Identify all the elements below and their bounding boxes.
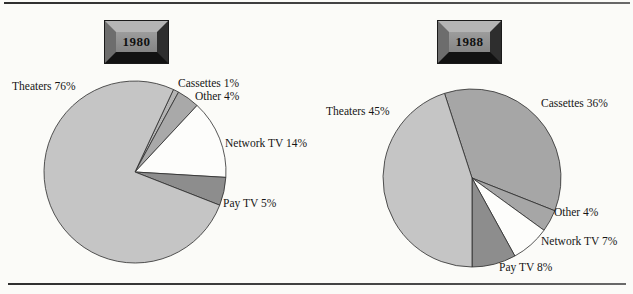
label-other-1988: Other 4% (554, 206, 598, 219)
year-plaque-1988: 1988 (438, 21, 501, 63)
label-network-tv-1980: Network TV 14% (225, 137, 307, 150)
figure-pie-comparison: 1980 1988 Cassettes 1% Other 4% Network … (0, 0, 633, 294)
label-pay-tv-1980: Pay TV 5% (223, 197, 276, 210)
label-cassettes-1988: Cassettes 36% (541, 97, 608, 110)
label-network-tv-1988: Network TV 7% (541, 235, 617, 248)
label-theaters-1988: Theaters 45% (326, 105, 390, 118)
label-cassettes-1980: Cassettes 1% (178, 77, 239, 90)
year-label-1980: 1980 (116, 32, 157, 52)
label-theaters-1980: Theaters 76% (12, 80, 76, 93)
pie-charts-canvas (0, 0, 633, 294)
label-pay-tv-1988: Pay TV 8% (499, 261, 552, 274)
label-other-1980: Other 4% (195, 90, 239, 103)
year-label-1988: 1988 (449, 32, 490, 52)
year-plaque-1980: 1980 (105, 21, 168, 63)
